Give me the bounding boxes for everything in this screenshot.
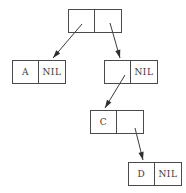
- node-c-car-cell: C: [91, 111, 117, 133]
- node-c-cdr-cell: [117, 111, 143, 133]
- node-a-car-cell: A: [13, 61, 39, 83]
- node-c[interactable]: C: [90, 110, 144, 134]
- cons-cell-diagram: A NIL NIL C D NIL: [0, 0, 186, 193]
- node-b-cdr-cell: NIL: [131, 61, 157, 83]
- pointer-node-c-right-to-node-d-arrowhead: [139, 152, 144, 160]
- pointer-root-right-to-node-b-arrowhead: [115, 50, 120, 58]
- node-d-cdr-cell: NIL: [155, 163, 181, 185]
- node-d-car-cell: D: [129, 163, 155, 185]
- root-node[interactable]: [68, 9, 122, 33]
- root-node-cdr-cell: [95, 10, 121, 32]
- node-b[interactable]: NIL: [104, 60, 158, 84]
- pointer-node-b-left-to-node-c-arrowhead: [105, 100, 111, 108]
- node-d[interactable]: D NIL: [128, 162, 182, 186]
- node-a-cdr-cell: NIL: [39, 61, 65, 83]
- node-b-car-cell: [105, 61, 131, 83]
- node-a[interactable]: A NIL: [12, 60, 66, 84]
- root-node-car-cell: [69, 10, 95, 32]
